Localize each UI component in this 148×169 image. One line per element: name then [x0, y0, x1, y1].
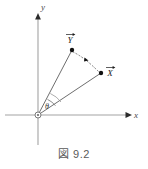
theta-label: θ [45, 102, 49, 111]
vector-y-overbar-arrowhead [73, 33, 76, 36]
connector-arrow-marker [84, 58, 89, 62]
dotted-connector [73, 52, 99, 72]
point-x-marker [99, 71, 103, 75]
y-axis-label: y [40, 2, 45, 12]
figure-container: y x Y X θ 図 9.2 [0, 0, 148, 169]
vector-y-label-group: Y [66, 33, 75, 45]
coordinate-diagram: y x Y X θ [0, 0, 148, 169]
vector-x-label-group: X [106, 66, 115, 78]
y-axis-arrowhead [35, 13, 41, 20]
x-axis-arrowhead [126, 112, 133, 118]
x-axis-label: x [133, 110, 138, 120]
vector-x-label: X [106, 68, 113, 78]
vector-y-label: Y [67, 35, 73, 45]
point-y-marker [70, 48, 74, 52]
vector-x-overbar-arrowhead [113, 66, 116, 69]
figure-caption: 図 9.2 [0, 145, 148, 161]
origin-dot-icon [37, 114, 39, 116]
